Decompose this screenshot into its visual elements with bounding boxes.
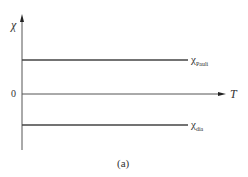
y-axis-arrow-icon bbox=[20, 14, 24, 22]
figure-caption: (a) bbox=[117, 158, 129, 169]
x-axis-label: T bbox=[230, 88, 237, 100]
diagram-canvas bbox=[0, 0, 248, 177]
dia-label: χdia bbox=[191, 119, 203, 132]
x-axis-arrow-icon bbox=[218, 92, 226, 96]
dia-subscript: dia bbox=[196, 126, 203, 132]
y-axis-label: χ bbox=[11, 19, 16, 31]
pauli-subscript: Pauli bbox=[196, 61, 208, 67]
origin-label: 0 bbox=[11, 89, 16, 99]
pauli-label: χPauli bbox=[191, 54, 208, 67]
